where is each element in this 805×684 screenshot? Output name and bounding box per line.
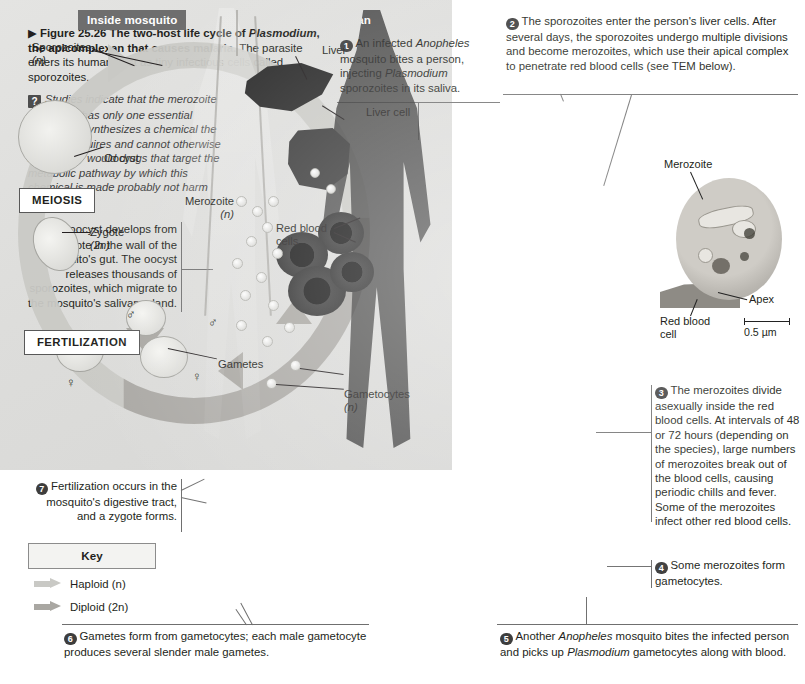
cycle-arrow-haploid-top-left [18, 42, 370, 424]
label-red-blood-cells: Red blood cells [276, 222, 327, 249]
tem-micrograph [676, 178, 782, 300]
label-liver: Liver [322, 44, 346, 57]
tem-scale-bar-line [744, 318, 790, 325]
merozoite-dot-15 [326, 184, 336, 194]
liver-cell-shape [288, 128, 350, 190]
label-oocyst: Oocyst [104, 152, 139, 165]
label-zygote-line2: (2n) [90, 239, 124, 252]
label-gametocytes-line1: Gametocytes [344, 388, 410, 401]
banner-inside-mosquito: Inside mosquito [78, 10, 186, 30]
tem-label-merozoite: Merozoite [664, 158, 712, 171]
merozoite-dot-3 [268, 196, 279, 207]
cycle-arrow-haploid-top-right [18, 42, 370, 424]
leader-rbc-a [334, 218, 360, 229]
female-symbol-2: ♀ [66, 376, 76, 389]
female-gamete-shape-right [140, 336, 188, 378]
label-gametocytes-line2: (n) [344, 401, 410, 414]
merozoite-dot-13 [284, 322, 295, 333]
label-gametes: Gametes [218, 358, 263, 371]
tem-label-rbc-line2: cell [660, 328, 710, 341]
tem-scale-bar: 0.5 µm [744, 318, 790, 338]
merozoite-dot-2 [252, 206, 263, 217]
label-sporozoites: Sporozoites (n) [32, 41, 91, 68]
gametocyte-dot-1 [290, 360, 301, 371]
cycle-arrowhead-lower-left [126, 328, 164, 353]
gametocyte-dot-2 [266, 378, 277, 389]
male-symbol-1: ♂ [208, 316, 218, 329]
label-liver-cell: Liver cell [366, 106, 410, 119]
leader-sporozoites-b [92, 50, 163, 66]
red-blood-cell-2 [276, 232, 328, 278]
leader-oocyst [74, 147, 103, 157]
red-blood-cell-3 [288, 266, 346, 316]
male-gametocyte-shape [126, 300, 166, 336]
tem-label-red-blood-cell: Red blood cell [660, 315, 710, 341]
tem-organelle-2 [740, 252, 749, 261]
label-merozoite: Merozoite (n) [174, 195, 234, 222]
male-symbol-2: ♂ [126, 308, 136, 321]
tem-label-rbc-line1: Red blood [660, 315, 710, 328]
liver-shape [243, 62, 337, 118]
label-merozoite-line2: (n) [174, 208, 234, 221]
process-box-fertilization: FERTILIZATION [24, 330, 140, 355]
leader-gametocytes-b [276, 384, 344, 390]
tem-merozoite-shape [676, 178, 782, 300]
merozoite-dot-5 [246, 236, 257, 247]
female-symbol-1: ♀ [192, 370, 202, 383]
leader-gametocytes-a [300, 368, 344, 375]
leader-rbc-b [334, 232, 356, 243]
merozoite-dot-4 [262, 222, 273, 233]
red-blood-cell-4 [330, 252, 374, 292]
merozoite-dot-7 [232, 258, 243, 269]
tem-organelle-3 [712, 258, 730, 274]
leader-zygote [62, 232, 90, 233]
merozoite-dot-8 [256, 272, 267, 283]
human-silhouette [150, 8, 300, 448]
tem-organelle-1 [744, 228, 755, 239]
merozoite-dot-12 [262, 336, 273, 347]
life-cycle-diagram: Inside mosquito Inside human MEIOSIS FER… [0, 0, 452, 470]
tem-vacuole-3 [698, 248, 713, 263]
label-zygote-line1: Zygote [90, 226, 124, 239]
merozoite-dot-10 [268, 300, 279, 311]
merozoite-dot-1 [236, 196, 247, 207]
cycle-arrowhead-right [276, 300, 312, 324]
merozoite-dot-14 [310, 168, 320, 178]
oocyst-shape [18, 100, 92, 174]
process-box-meiosis: MEIOSIS [19, 188, 95, 213]
cycle-arrow-diploid-bottom [18, 42, 370, 424]
tem-label-apex: Apex [749, 293, 774, 306]
zygote-shape [25, 209, 88, 278]
cycle-arrowhead-bottom [218, 352, 243, 390]
mosquito-proboscis [236, 10, 238, 56]
human-outline-right [254, 16, 272, 316]
label-zygote: Zygote (2n) [90, 226, 124, 253]
leader-liver [295, 56, 307, 80]
cycle-arrow-haploid-left [18, 42, 370, 424]
human-outline-left [204, 16, 222, 316]
tem-scale-bar-label: 0.5 µm [744, 326, 790, 338]
red-blood-cell-1 [318, 212, 364, 254]
leader-sporozoites-a [92, 48, 135, 66]
banner-inside-human: Inside human [286, 10, 454, 457]
label-sporozoites-line1: Sporozoites [32, 41, 91, 54]
label-red-blood-cells-line1: Red blood [276, 222, 327, 235]
merozoite-dot-6 [272, 248, 283, 259]
label-red-blood-cells-line2: cells [276, 235, 327, 248]
merozoite-dot-11 [236, 320, 247, 331]
cycle-arrowhead-top [108, 44, 133, 82]
label-sporozoites-line2: (n) [32, 54, 91, 67]
female-gamete-shape-left [56, 330, 104, 372]
leader-gametes [168, 348, 217, 359]
label-gametocytes: Gametocytes (n) [344, 388, 410, 415]
label-merozoite-line1: Merozoite [174, 195, 234, 208]
merozoite-dot-9 [240, 290, 251, 301]
leader-liver-cell [322, 105, 345, 120]
